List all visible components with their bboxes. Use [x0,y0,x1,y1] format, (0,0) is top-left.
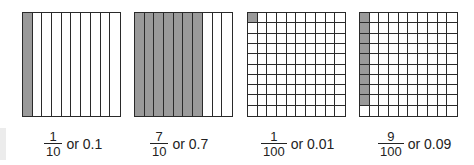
cell [428,95,438,105]
cell [326,95,336,105]
column [71,13,81,116]
tenths-grid-seven-tenths [134,12,233,117]
cell [326,106,336,116]
cell [258,34,268,44]
cell [418,95,428,105]
fraction: 9 100 [378,130,404,158]
cell [316,54,326,64]
cell [399,13,409,23]
cell [418,85,428,95]
cell [389,65,399,75]
cell [258,75,268,85]
shaded-cell [360,44,370,54]
cell [399,44,409,54]
cell [287,85,297,95]
shaded-cell [248,13,258,23]
cell [335,85,345,95]
cell [370,75,380,85]
cell [326,44,336,54]
cell [408,65,418,75]
cell [267,95,277,105]
cell [306,95,316,105]
cell [335,44,345,54]
decimal-text: or 0.01 [291,136,335,152]
cell [277,95,287,105]
cell [326,75,336,85]
cell [267,106,277,116]
hundredths-grid-one-hundredth [247,12,346,117]
left-edge-bar [0,128,6,160]
cell [277,44,287,54]
cell [370,23,380,33]
cell [438,34,448,44]
cell [379,23,389,33]
cell [326,85,336,95]
cell [267,65,277,75]
cell [316,75,326,85]
column [33,13,43,116]
cell [360,106,370,116]
cell [447,23,457,33]
cell [306,34,316,44]
column [110,13,120,116]
cell [399,106,409,116]
cell [287,95,297,105]
cell [258,85,268,95]
shaded-column [183,13,193,116]
cell [447,65,457,75]
cell [326,54,336,64]
cell [370,85,380,95]
cell [447,34,457,44]
cell [370,65,380,75]
cell [438,44,448,54]
cell [316,44,326,54]
cell [306,54,316,64]
cell [379,44,389,54]
cell [287,65,297,75]
cell [248,106,258,116]
cell [438,95,448,105]
numerator: 1 [268,130,279,143]
column [222,13,232,116]
shaded-cell [360,54,370,64]
cell [306,44,316,54]
numerator: 1 [48,130,59,143]
cell [379,75,389,85]
cell [248,23,258,33]
cell [428,44,438,54]
cell [389,75,399,85]
cell [399,65,409,75]
cell [287,75,297,85]
cell [438,23,448,33]
cell [408,34,418,44]
shaded-column [23,13,33,116]
denominator: 100 [261,143,287,158]
cell [248,34,258,44]
label-one-tenth: 1 10 or 0.1 [44,129,102,159]
cell [296,34,306,44]
cell [287,54,297,64]
cell [306,23,316,33]
shaded-column [135,13,145,116]
denominator: 10 [150,143,168,158]
cell [408,95,418,105]
column [213,13,223,116]
cell [248,85,258,95]
fraction: 7 10 [150,130,168,158]
cell [438,65,448,75]
cell [296,44,306,54]
cell [418,23,428,33]
cell [428,23,438,33]
cell [428,65,438,75]
cell [418,54,428,64]
column [62,13,72,116]
cell [316,34,326,44]
cell [428,13,438,23]
cell [296,54,306,64]
cell [379,85,389,95]
cell [389,13,399,23]
denominator: 10 [44,143,62,158]
cell [267,23,277,33]
cell [335,65,345,75]
cell [399,95,409,105]
